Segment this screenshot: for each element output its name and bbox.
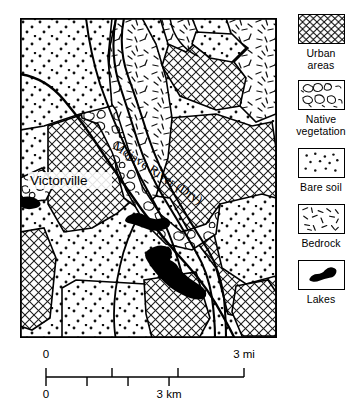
legend-swatch-lakes xyxy=(298,260,345,290)
map-figure-root: Victorville Mojave River (Dry) xyxy=(0,0,356,412)
dash-pattern-icon xyxy=(299,205,344,233)
scale-label-miles-start: 0 xyxy=(43,348,49,360)
scale-bars: 0 3 mi 0 3 km xyxy=(20,344,278,406)
polygon-urban-bottom-right xyxy=(232,280,276,336)
stipple-pattern-icon xyxy=(299,149,344,177)
legend-label-native-vegetation: Native vegetation xyxy=(288,113,354,137)
land-cover-map: Victorville Mojave River (Dry) xyxy=(20,18,277,338)
scale-ticks-kilometers xyxy=(46,377,169,386)
label-victorville-group: Victorville xyxy=(28,172,112,189)
legend-item-bare-soil: Bare soil xyxy=(288,148,354,193)
scale-label-km-start: 0 xyxy=(43,388,49,400)
scale-label-km-end: 3 km xyxy=(157,388,182,400)
legend-item-lakes: Lakes xyxy=(288,260,354,305)
scale-bar-canvas: 0 3 mi 0 3 km xyxy=(20,344,278,406)
legend-swatch-native-vegetation xyxy=(298,80,345,110)
polygon-urban-lower-left xyxy=(20,228,56,330)
map-legend: Urban areas xyxy=(288,14,354,326)
solid-lake-icon xyxy=(299,261,344,289)
legend-item-bedrock: Bedrock xyxy=(288,204,354,249)
label-victorville: Victorville xyxy=(30,173,88,188)
legend-swatch-bedrock xyxy=(298,204,345,234)
map-canvas: Victorville Mojave River (Dry) xyxy=(20,18,277,338)
legend-item-urban-areas: Urban areas xyxy=(288,14,354,71)
blob-pattern-icon xyxy=(299,81,344,109)
legend-item-native-vegetation: Native vegetation xyxy=(288,80,354,137)
legend-swatch-bare-soil xyxy=(298,148,345,178)
legend-swatch-urban-areas xyxy=(298,14,345,44)
legend-label-urban-areas: Urban areas xyxy=(288,47,354,71)
scale-ticks-miles xyxy=(46,368,244,377)
legend-label-bare-soil: Bare soil xyxy=(288,181,354,193)
legend-label-lakes: Lakes xyxy=(288,293,354,305)
legend-label-bedrock: Bedrock xyxy=(288,237,354,249)
crosshatch-pattern-icon xyxy=(299,15,344,43)
scale-label-miles-end: 3 mi xyxy=(233,348,255,360)
